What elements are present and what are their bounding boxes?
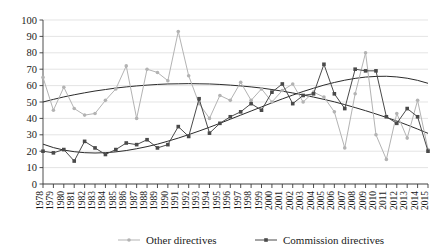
data-point	[124, 141, 128, 145]
x-tick-label: 2010	[368, 191, 378, 210]
legend-marker	[127, 238, 131, 242]
y-tick-label: 40	[27, 113, 38, 124]
legend-label: Commission directives	[283, 234, 384, 246]
data-point	[52, 151, 56, 155]
data-point	[385, 158, 389, 162]
data-point	[218, 94, 222, 98]
x-tick-label: 2013	[399, 191, 409, 210]
y-axis: 0102030405060708090100	[21, 15, 43, 190]
x-tick-label: 2014	[410, 191, 420, 210]
x-tick-label: 1979	[45, 191, 55, 210]
x-tick-label: 1992	[181, 191, 191, 210]
y-tick-label: 60	[27, 80, 38, 91]
data-point	[104, 153, 108, 157]
data-point	[93, 146, 97, 150]
data-point	[104, 99, 108, 103]
data-point	[187, 74, 191, 78]
x-axis: 1978197919801981198219831984198519861987…	[35, 184, 430, 210]
data-point	[416, 115, 420, 119]
y-tick-label: 10	[27, 162, 38, 173]
x-tick-label: 2003	[295, 191, 305, 210]
data-point	[405, 136, 409, 140]
data-point	[343, 146, 347, 150]
data-point	[228, 115, 232, 119]
x-tick-label: 1984	[97, 191, 107, 210]
data-point	[187, 135, 191, 139]
data-point	[270, 90, 274, 94]
data-point	[322, 62, 326, 66]
data-point	[312, 92, 316, 96]
data-point	[249, 99, 253, 103]
x-tick-label: 1989	[149, 191, 159, 210]
x-tick-label: 1990	[160, 191, 170, 210]
data-point	[333, 92, 337, 96]
x-tick-label: 1995	[212, 191, 222, 210]
x-tick-label: 1982	[77, 191, 87, 210]
data-point	[218, 122, 222, 126]
data-point	[145, 138, 149, 142]
data-point	[83, 113, 87, 117]
x-tick-label: 2012	[389, 191, 399, 210]
x-tick-label: 1988	[139, 191, 149, 210]
x-tick-label: 2000	[264, 191, 274, 210]
data-point	[395, 122, 399, 126]
data-point	[281, 82, 285, 86]
data-point	[301, 100, 305, 104]
x-tick-label: 2006	[326, 191, 336, 210]
data-point	[333, 110, 337, 114]
line-chart: 0102030405060708090100 19781979198019811…	[0, 0, 440, 252]
legend-label: Other directives	[146, 234, 217, 246]
data-point	[72, 159, 76, 163]
y-tick-label: 80	[27, 47, 38, 58]
x-tick-label: 2002	[285, 191, 295, 210]
y-tick-label: 50	[27, 97, 38, 108]
data-point	[239, 110, 243, 114]
chart-legend: Other directivesCommission directives	[118, 234, 384, 246]
data-point	[249, 102, 253, 106]
x-tick-label: 1991	[170, 191, 180, 210]
x-tick-label: 1986	[118, 191, 128, 210]
data-point	[176, 125, 180, 129]
x-tick-label: 1994	[201, 191, 211, 210]
data-point	[228, 99, 232, 103]
data-point	[239, 81, 243, 85]
series-line	[43, 31, 428, 159]
x-tick-label: 1980	[56, 191, 66, 210]
x-tick-label: 2001	[274, 191, 284, 210]
x-tick-label: 1983	[87, 191, 97, 210]
data-point	[124, 64, 128, 68]
x-tick-label: 2004	[306, 191, 316, 210]
data-point	[301, 94, 305, 98]
data-point	[405, 107, 409, 111]
x-tick-label: 2009	[358, 191, 368, 210]
data-point	[353, 67, 357, 71]
x-tick-label: 1996	[222, 191, 232, 210]
data-point	[270, 100, 274, 104]
x-tick-label: 1981	[66, 191, 76, 210]
y-tick-label: 30	[27, 129, 38, 140]
data-point	[364, 51, 368, 55]
data-point	[281, 89, 285, 93]
data-series	[41, 30, 430, 163]
y-tick-label: 70	[27, 64, 38, 75]
x-tick-label: 2008	[347, 191, 357, 210]
y-tick-label: 100	[21, 15, 37, 26]
data-point	[291, 102, 295, 106]
data-point	[145, 67, 149, 71]
gridlines	[43, 20, 428, 184]
y-tick-label: 0	[32, 179, 37, 190]
x-tick-label: 1998	[243, 191, 253, 210]
data-point	[62, 85, 66, 89]
legend-marker	[264, 238, 268, 242]
data-point	[260, 108, 264, 112]
data-point	[114, 87, 118, 91]
data-point	[426, 149, 430, 153]
data-point	[343, 107, 347, 111]
data-point	[166, 143, 170, 147]
data-point	[395, 112, 399, 116]
chart-container: 0102030405060708090100 19781979198019811…	[0, 0, 440, 252]
x-tick-label: 2005	[316, 191, 326, 210]
data-point	[135, 117, 139, 121]
x-tick-label: 2007	[337, 191, 347, 210]
x-tick-label: 1993	[191, 191, 201, 210]
